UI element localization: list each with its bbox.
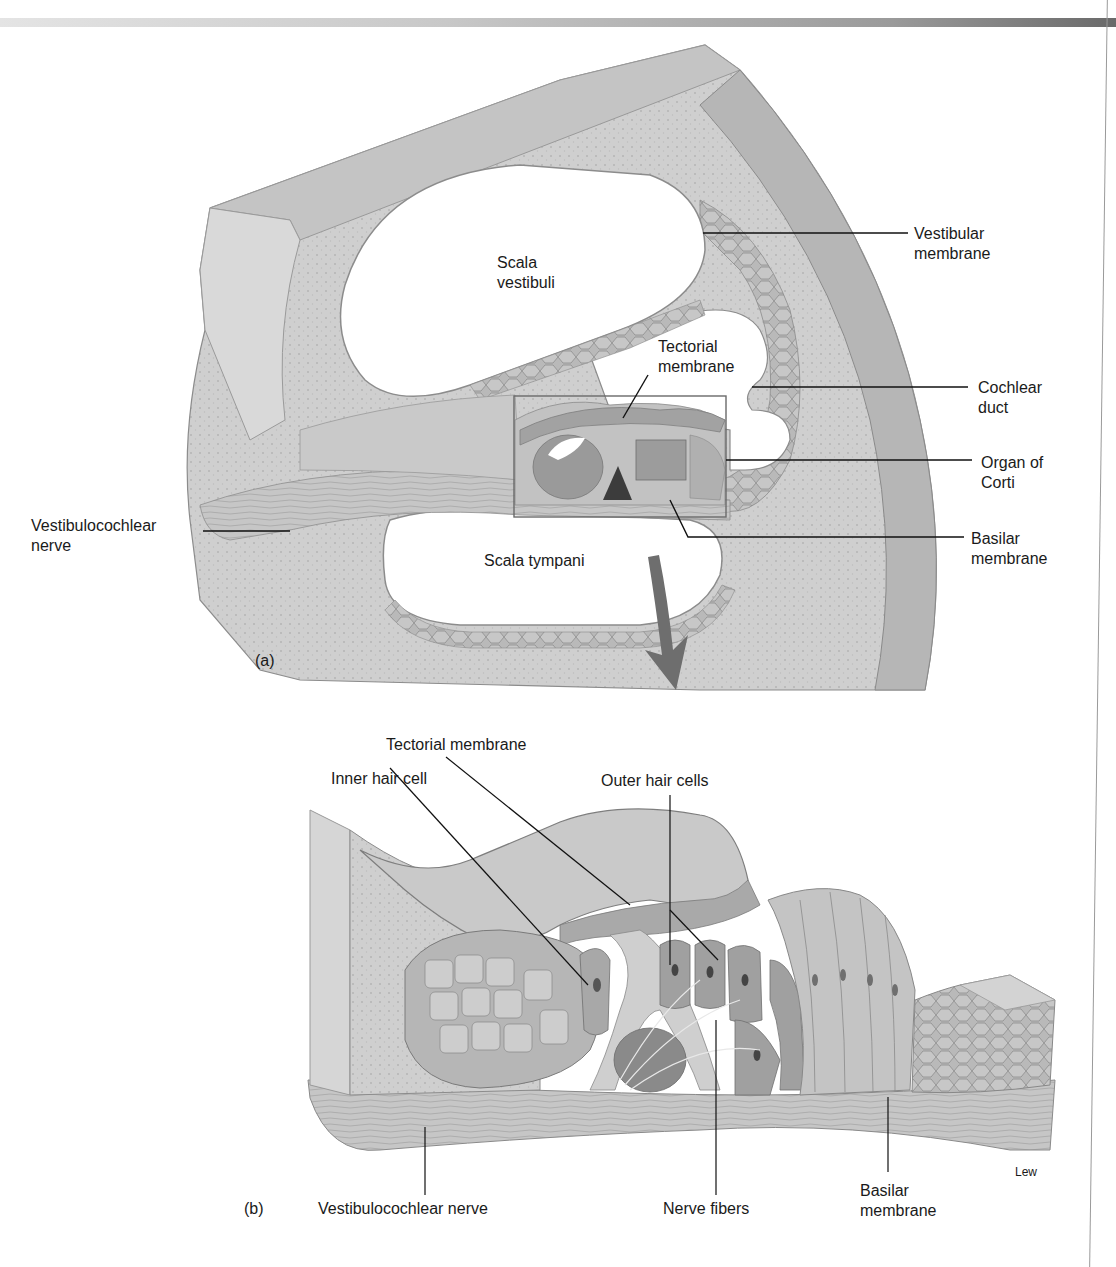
label-vestibulocochlear-nerve-b: Vestibulocochlear nerve [318, 1199, 488, 1219]
label-vestibulocochlear-nerve-a: Vestibulocochlear nerve [31, 516, 156, 556]
organ-of-corti-detail [515, 402, 725, 505]
label-vestibular-membrane: Vestibular membrane [914, 224, 990, 264]
label-cochlear-duct: Cochlear duct [978, 378, 1042, 418]
label-scala-vestibuli: Scala vestibuli [497, 253, 555, 293]
label-scala-tympani: Scala tympani [484, 551, 585, 571]
illustration-canvas [0, 0, 1116, 1267]
panel-b-label: (b) [244, 1199, 264, 1219]
label-basilar-membrane-a: Basilar membrane [971, 529, 1047, 569]
label-nerve-fibers: Nerve fibers [663, 1199, 749, 1219]
label-basilar-membrane-b: Basilar membrane [860, 1181, 936, 1221]
label-tectorial-membrane-b: Tectorial membrane [386, 735, 527, 755]
panel-b-drawing [308, 809, 1055, 1150]
panel-a-drawing [187, 45, 936, 690]
panel-a-label: (a) [255, 651, 275, 671]
label-outer-hair-cells: Outer hair cells [601, 771, 709, 791]
label-tectorial-membrane-a: Tectorial membrane [658, 337, 734, 377]
label-inner-hair-cell: Inner hair cell [331, 769, 427, 789]
label-organ-of-corti: Organ of Corti [981, 453, 1043, 493]
artist-signature: Lew [1015, 1162, 1037, 1182]
cochlea-figure: Scala vestibuli Vestibular membrane Tect… [0, 0, 1116, 1267]
